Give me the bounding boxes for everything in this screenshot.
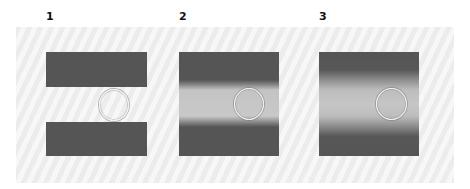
circle-marker (99, 89, 129, 121)
top-bar (46, 52, 147, 87)
circle-marker (234, 88, 264, 120)
panel-label-2: 2 (179, 10, 187, 23)
panel-3 (319, 52, 419, 156)
circle-marker (376, 88, 407, 120)
bottom-bar (46, 122, 147, 156)
panel-label-1: 1 (46, 10, 54, 23)
panel-1 (46, 52, 147, 156)
panel-label-3: 3 (319, 10, 327, 23)
panel-2 (179, 52, 279, 156)
